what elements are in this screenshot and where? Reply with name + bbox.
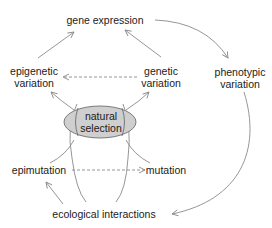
- node-epimutation: epimutation: [12, 164, 66, 176]
- edge-selection-to-epigenetic: [51, 92, 74, 110]
- edge-gene-expression-to-phenotypic: [155, 20, 228, 58]
- edge-genetic-to-gene-expression: [125, 30, 161, 57]
- edge-selection-to-genetic: [126, 92, 149, 110]
- evolution-diagram: gene expression epigenetic variation gen…: [0, 0, 272, 228]
- label-line: selection: [80, 122, 121, 134]
- label-line: phenotypic: [215, 66, 266, 78]
- node-natural-selection: natural selection: [80, 110, 121, 134]
- label-line: variation: [215, 78, 266, 90]
- label-line: variation: [141, 77, 181, 89]
- edge-epigenetic-to-gene-expression: [38, 32, 74, 58]
- label-line: variation: [10, 77, 58, 89]
- node-mutation: mutation: [146, 164, 186, 176]
- node-gene-expression: gene expression: [66, 14, 143, 26]
- node-phenotypic-variation: phenotypic variation: [215, 66, 266, 90]
- diagram-edges: [0, 0, 272, 228]
- node-genetic-variation: genetic variation: [141, 65, 181, 89]
- edge-phenotypic-to-ecological: [172, 92, 250, 214]
- node-epigenetic-variation: epigenetic variation: [10, 65, 58, 89]
- label-line: genetic: [141, 65, 181, 77]
- node-ecological-interactions: ecological interactions: [52, 208, 155, 220]
- label-line: epigenetic: [10, 65, 58, 77]
- edge-ecological-to-epimutation: [46, 182, 63, 204]
- label-line: natural: [80, 110, 121, 122]
